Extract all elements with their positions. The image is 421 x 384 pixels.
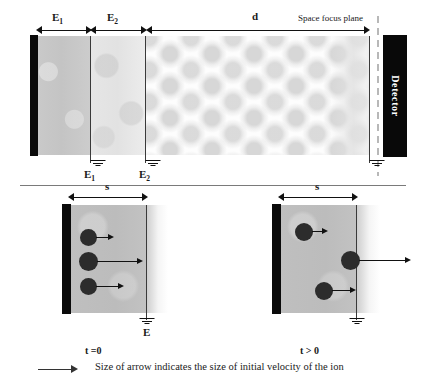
dimension-line <box>73 197 143 198</box>
space-focus-plane-label: Space focus plane <box>298 13 363 23</box>
detector-label: Detector <box>390 75 401 116</box>
ion <box>79 252 98 271</box>
arrowhead-right-icon <box>71 365 78 373</box>
electrode-label-e2: E2 <box>139 168 150 183</box>
dimension-label-s-left: s <box>105 180 109 192</box>
repeller-plate-right <box>272 204 281 314</box>
arrowhead-right-icon <box>108 234 114 240</box>
ground-symbol-right <box>349 318 364 325</box>
electrode-label-e1-sub: 1 <box>91 174 95 183</box>
velocity-arrow-large <box>359 257 411 264</box>
ground-symbol-e1 <box>90 160 105 167</box>
ion <box>80 278 97 295</box>
figure-canvas: Detector E1 E2 d Space focus plane <box>0 0 421 384</box>
ion <box>80 229 97 246</box>
arrow-shaft <box>332 290 351 291</box>
arrowhead-right-icon <box>364 26 370 34</box>
repeller-plate-left <box>62 204 71 314</box>
detector: Detector <box>383 35 407 157</box>
arrowhead-right-icon <box>118 283 124 289</box>
time-label-t-zero: t =0 <box>85 345 102 356</box>
arrowhead-right-icon <box>142 193 148 201</box>
acceleration-region-e2 <box>90 36 145 155</box>
arrowhead-right-icon <box>350 287 356 293</box>
electrode-label-e2-sub: 2 <box>146 174 150 183</box>
ion <box>315 282 333 300</box>
ground-symbol-drift <box>369 160 384 167</box>
dimension-line <box>95 30 142 31</box>
extraction-grid-left <box>146 205 147 320</box>
arrow-shaft <box>97 261 138 262</box>
caption-text: Size of arrow indicates the size of init… <box>95 361 344 372</box>
arrowhead-right-icon <box>137 258 143 264</box>
ground-symbol-e2 <box>145 160 160 167</box>
arrowhead-right-icon <box>405 257 411 263</box>
right-arrow-icon <box>38 365 78 373</box>
dimension-label-e1: E1 <box>52 11 63 26</box>
caption-row: Size of arrow indicates the size of init… <box>0 361 421 381</box>
dimension-arrow-e1 <box>36 26 92 35</box>
dimension-label-e2: E2 <box>107 11 118 26</box>
arrow-shaft <box>359 260 406 261</box>
ion <box>295 223 313 241</box>
dimension-label-d-text: d <box>252 10 258 22</box>
arrowhead-right-icon <box>322 228 328 234</box>
time-label-t-greater-zero: t > 0 <box>300 345 319 356</box>
field-edge-fade-left <box>146 205 168 313</box>
acceleration-region-e1 <box>38 36 90 155</box>
dimension-arrow-d <box>146 26 370 35</box>
dimension-line <box>283 197 353 198</box>
velocity-arrow-large <box>97 258 143 265</box>
electrode-label-e1: E1 <box>84 168 95 183</box>
tof-schematic-top-panel: Detector E1 E2 d Space focus plane <box>0 0 421 184</box>
dimension-label-d: d <box>252 10 258 22</box>
arrowhead-right-icon <box>352 193 358 201</box>
dimension-label-e1-sub: 1 <box>59 17 63 26</box>
drift-tube-exit-grid <box>369 36 370 163</box>
repeller-plate <box>30 35 38 156</box>
grid-electrode-e1 <box>90 36 91 163</box>
dimension-arrow-s-right <box>278 193 358 202</box>
field-label-e: E <box>143 326 150 338</box>
velocity-arrow-small <box>312 228 328 235</box>
section-divider <box>20 185 406 186</box>
drift-region-right-fade <box>330 36 369 155</box>
panel-t-greater-zero: s t > 0 <box>210 190 421 350</box>
ion <box>341 251 360 270</box>
dimension-arrow-s-left <box>68 193 148 202</box>
ground-symbol-left <box>139 318 154 325</box>
dimension-line <box>41 30 87 31</box>
dimension-arrow-e2 <box>90 26 147 35</box>
arrow-shaft <box>96 286 119 287</box>
dimension-label-e2-sub: 2 <box>114 17 118 26</box>
panel-t-zero: s E t =0 <box>0 190 210 350</box>
space-focus-plane-marker <box>377 16 379 176</box>
velocity-arrow-medium <box>332 287 356 294</box>
arrow-shaft <box>38 369 72 370</box>
dimension-label-s-right: s <box>315 180 319 192</box>
grid-electrode-e2 <box>145 36 146 163</box>
dimension-line <box>151 30 365 31</box>
velocity-arrow-medium <box>96 283 124 290</box>
velocity-arrow-small <box>96 234 114 241</box>
